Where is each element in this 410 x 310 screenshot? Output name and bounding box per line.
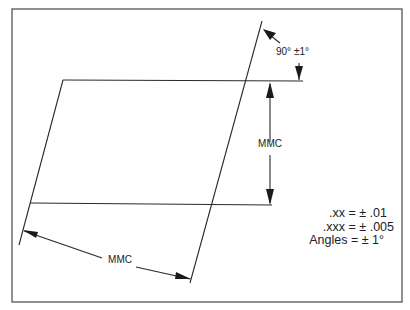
vertical-dimension-label: MMC [258, 138, 282, 149]
vertical-dimension-arrow-down-icon [266, 189, 274, 205]
drawing-frame [12, 9, 402, 302]
bottom-edge-line [30, 203, 272, 205]
tolerance-note-three-decimal: .xxx = ± .005 [323, 220, 394, 234]
slanted-dimension-label: MMC [108, 254, 132, 265]
vertical-dimension-arrow-up-icon [266, 82, 274, 98]
slanted-dimension-arrow-left-icon [23, 230, 38, 238]
top-edge-line [63, 80, 303, 81]
right-slanted-datum-line [190, 21, 262, 283]
left-slanted-edge [19, 80, 63, 245]
angle-callout-text: 90° ±1° [276, 46, 309, 57]
angle-tick-arrowhead-icon [295, 66, 303, 80]
tolerance-note-angles: Angles = ± 1° [309, 233, 384, 247]
slanted-dimension-arrow-right-icon [175, 272, 191, 279]
mmc-diagram: 90° ±1° MMC MMC .xx = ± .01 .xxx = ± .00… [0, 0, 410, 310]
tolerance-note-two-decimal: .xx = ± .01 [329, 206, 387, 220]
